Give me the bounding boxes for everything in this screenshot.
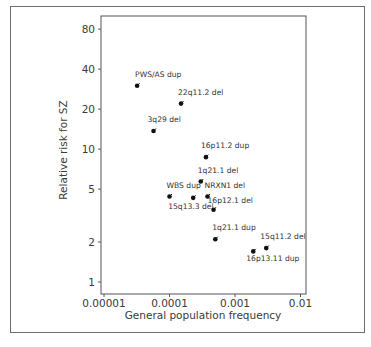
y-tick-label: 2 [88, 236, 95, 248]
data-point: 16p13.11 dup [246, 249, 299, 263]
y-tick-label: 20 [82, 103, 95, 115]
data-point: 3q29 del [148, 115, 181, 133]
point-label: 1q21.1 del [198, 166, 239, 175]
x-tick-label: 0.0001 [151, 297, 188, 309]
point-label: PWS/AS dup [135, 70, 182, 79]
point-label: 16p13.11 dup [246, 254, 299, 263]
point-label: 22q11.2 del [178, 88, 223, 97]
y-tick-label: 5 [88, 183, 95, 195]
x-axis-title: General population frequency [125, 309, 282, 321]
y-axis: 12510204080 [82, 23, 101, 288]
x-tick-label: 0.001 [220, 297, 250, 309]
y-tick-label: 40 [82, 63, 95, 75]
data-point: PWS/AS dup [135, 70, 182, 88]
y-tick-label: 10 [82, 143, 95, 155]
data-point: 16p11.2 dup [201, 141, 249, 159]
scatter-chart: 12510204080 0.000010.00010.0010.01 PWS/A… [0, 0, 371, 347]
y-tick-label: 1 [88, 276, 95, 288]
x-tick-label: 0.00001 [82, 297, 125, 309]
data-point: 1q21.1 dup [212, 223, 256, 241]
y-tick-label: 80 [82, 23, 95, 35]
data-point: WBS dup [167, 181, 201, 198]
data-points: PWS/AS dup22q11.2 del3q29 del16p11.2 dup… [135, 70, 306, 264]
point-label: 16p11.2 dup [201, 141, 249, 150]
data-point: 15q11.2 del [260, 232, 305, 250]
x-axis: 0.000010.00010.0010.01 [82, 294, 312, 309]
point-label: 3q29 del [148, 115, 181, 124]
plot-area [101, 16, 306, 294]
point-label: 1q21.1 dup [212, 223, 256, 232]
point-label: 15q11.2 del [260, 232, 305, 241]
point-label: NRXN1 del [204, 181, 245, 190]
data-point: 16p12.1 del [208, 196, 253, 212]
y-axis-title: Relative risk for SZ [57, 100, 69, 199]
data-point: 22q11.2 del [178, 88, 223, 106]
point-label: 16p12.1 del [208, 196, 253, 205]
x-tick-label: 0.01 [289, 297, 312, 309]
point-label: WBS dup [167, 181, 201, 190]
